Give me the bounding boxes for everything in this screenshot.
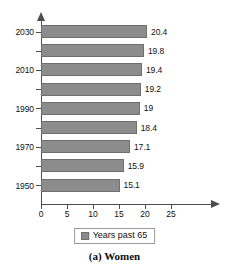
x-tick-label-0: 0 (29, 209, 53, 219)
y-axis-label-2010: 2010 (0, 65, 34, 75)
bar-1950 (41, 179, 120, 192)
bar-row: 19.4 (41, 63, 213, 76)
x-tick-label-15: 15 (107, 209, 131, 219)
bar-2030 (41, 25, 147, 38)
bar-row: 15.1 (41, 179, 213, 192)
bar-value-label-2020: 19.8 (148, 46, 164, 56)
x-axis-arrow-icon (211, 200, 220, 208)
bar-value-label-1960: 15.9 (128, 161, 144, 171)
bar-2010 (41, 63, 142, 76)
y-axis-label-1970: 1970 (0, 142, 34, 152)
chart-legend: Years past 65 (74, 228, 156, 244)
bar-chart-plot-area: 0510152025 20.419.819.419.21918.417.115.… (0, 0, 229, 215)
bar-value-label-1950: 15.1 (124, 180, 140, 190)
figure-women-years-past-65: 0510152025 20.419.819.419.21918.417.115.… (0, 0, 229, 272)
figure-caption: (a) Women (0, 250, 229, 262)
bar-1990 (41, 102, 140, 115)
bar-row: 15.9 (41, 159, 213, 172)
bar-value-label-2030: 20.4 (151, 27, 167, 37)
legend-swatch-icon (81, 232, 89, 240)
legend-label-years-past-65: Years past 65 (93, 231, 148, 240)
bar-row: 19 (41, 102, 213, 115)
bar-value-label-1980: 18.4 (141, 123, 157, 133)
bar-1980 (41, 121, 137, 134)
bar-row: 18.4 (41, 121, 213, 134)
bar-row: 17.1 (41, 140, 213, 153)
bar-value-label-2000: 19.2 (145, 84, 161, 94)
y-axis-label-2030: 2030 (0, 27, 34, 37)
bar-value-label-1990: 19 (144, 103, 153, 113)
bar-1970 (41, 140, 130, 153)
bar-row: 19.8 (41, 44, 213, 57)
x-tick-label-10: 10 (81, 209, 105, 219)
bar-row: 20.4 (41, 25, 213, 38)
bar-value-label-2010: 19.4 (146, 65, 162, 75)
bar-1960 (41, 159, 124, 172)
bar-value-label-1970: 17.1 (134, 142, 150, 152)
x-tick-label-20: 20 (133, 209, 157, 219)
bar-2000 (41, 83, 141, 96)
bar-row: 19.2 (41, 83, 213, 96)
y-axis-label-1950: 1950 (0, 181, 34, 191)
x-tick-label-25: 25 (159, 209, 183, 219)
x-tick-label-5: 5 (55, 209, 79, 219)
y-axis-label-1990: 1990 (0, 104, 34, 114)
bar-2020 (41, 44, 144, 57)
